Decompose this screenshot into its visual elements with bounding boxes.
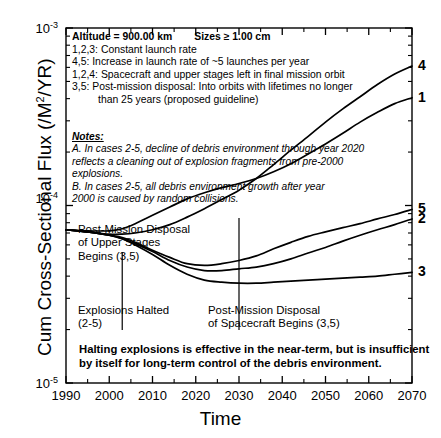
y-tick-label-1e-3: 10-3 <box>14 20 58 36</box>
notes-title: Notes: <box>72 131 372 143</box>
legend-row-text: Constant launch rate <box>101 44 197 55</box>
legend-row-key: 1,2,3: <box>72 44 98 57</box>
debris-flux-chart-figure: Cum Cross-Sectional Flux (/M2/YR) Time 1… <box>0 0 441 438</box>
notes-box: Notes: A. In cases 2-5, decline of debri… <box>72 131 372 205</box>
y-tick-label-1e-4: 10-4 <box>14 190 58 206</box>
legend-row: 4,5: Increase in launch rate of ~5 launc… <box>72 56 392 69</box>
notes-line: explosions. <box>72 168 372 180</box>
legend-altitude: Altitude = 900.00 km <box>72 31 172 42</box>
curve-label-2: 2 <box>418 210 426 226</box>
x-tick-label: 2020 <box>174 388 218 403</box>
x-tick-label: 1990 <box>44 388 88 403</box>
notes-line: B. In cases 2-5, all debris environment … <box>72 181 372 193</box>
notes-line: 2000 is caused by random collisions. <box>72 193 372 205</box>
x-tick-label: 2010 <box>131 388 175 403</box>
case-legend-box: Altitude = 900.00 kmSizes ≥ 1.00 cm 1,2,… <box>72 31 392 107</box>
conclusion-text: Halting explosions is effective in the n… <box>79 343 429 370</box>
x-tick-label: 2030 <box>217 388 261 403</box>
legend-row-key: 1,2,4: <box>72 69 98 82</box>
legend-row-text: Increase in launch rate of ~5 launches p… <box>92 56 309 67</box>
legend-row: 1,2,4: Spacecraft and upper stages left … <box>72 69 392 82</box>
x-tick-label: 2070 <box>390 388 434 403</box>
x-tick-label: 2000 <box>87 388 131 403</box>
x-axis-label: Time <box>0 408 441 430</box>
curve-label-4: 4 <box>418 57 426 73</box>
x-tick-label: 2060 <box>347 388 391 403</box>
legend-row-text: Post-mission disposal: Into orbits with … <box>92 81 352 92</box>
x-tick-label: 2040 <box>260 388 304 403</box>
curve-label-1: 1 <box>418 89 426 105</box>
curve-label-3: 3 <box>418 263 426 279</box>
x-tick-label: 2050 <box>304 388 348 403</box>
legend-row: 1,2,3: Constant launch rate <box>72 44 392 57</box>
annotation-explosions-halted: Explosions Halted (2-5) <box>78 304 169 331</box>
legend-header: Altitude = 900.00 kmSizes ≥ 1.00 cm <box>72 31 392 44</box>
legend-row-key: 3,5: <box>72 81 89 94</box>
legend-row-text: Spacecraft and upper stages left in fina… <box>101 69 345 80</box>
annotation-upper-stage-disposal: Post-Mission Disposal of Upper Stages Be… <box>78 223 190 263</box>
legend-sizes: Sizes ≥ 1.00 cm <box>194 31 270 42</box>
legend-row: 3,5: Post-mission disposal: Into orbits … <box>72 81 392 94</box>
notes-line: reflects a cleaning out of explosion fra… <box>72 156 372 168</box>
legend-row-continuation: than 25 years (proposed guideline) <box>72 94 392 107</box>
legend-row-key: 4,5: <box>72 56 89 69</box>
annotation-spacecraft-disposal: Post-Mission Disposal of Spacecraft Begi… <box>208 304 340 331</box>
notes-line: A. In cases 2-5, decline of debris envir… <box>72 143 372 155</box>
y-axis-label: Cum Cross-Sectional Flux (/M2/YR) <box>34 27 56 387</box>
